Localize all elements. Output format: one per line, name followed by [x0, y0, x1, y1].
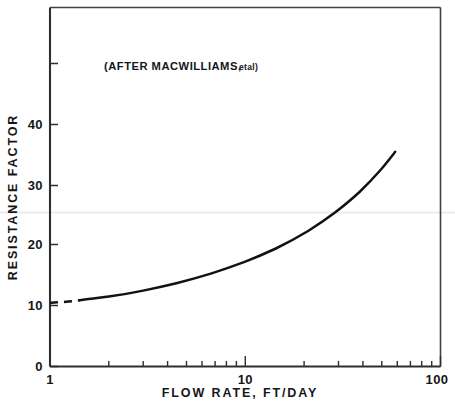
y-axis-ticks: [50, 64, 58, 367]
x-axis-title: FLOW RATE, FT/DAY: [162, 386, 319, 400]
x-tick-label-1: 1: [46, 372, 54, 387]
y-tick-label-20: 20: [28, 237, 43, 252]
data-curve: [80, 152, 395, 300]
y-tick-label-10: 10: [28, 298, 43, 313]
y-axis-title: RESISTANCE FACTOR: [6, 114, 20, 281]
chart-canvas: 0 10 20 30 40 1 10 100 FLOW RATE, FT/DAY…: [0, 0, 455, 405]
y-tick-label-40: 40: [28, 117, 43, 132]
chart-figure: 0 10 20 30 40 1 10 100 FLOW RATE, FT/DAY…: [0, 0, 455, 405]
x-axis-ticks: [50, 356, 441, 367]
source-annotation: (AFTER MACWILLIAMS, etal): [104, 60, 258, 72]
x-tick-label-100: 100: [426, 372, 449, 387]
data-curve-dashed-segment: [50, 300, 80, 303]
y-tick-label-0: 0: [35, 359, 43, 374]
source-annotation-suffix: etal): [239, 62, 258, 72]
source-annotation-main: (AFTER MACWILLIAMS,: [104, 60, 242, 72]
x-tick-label-10: 10: [238, 372, 253, 387]
y-tick-labels: 0 10 20 30 40: [28, 117, 43, 374]
x-tick-labels: 1 10 100: [46, 372, 448, 387]
y-tick-label-30: 30: [28, 178, 43, 193]
